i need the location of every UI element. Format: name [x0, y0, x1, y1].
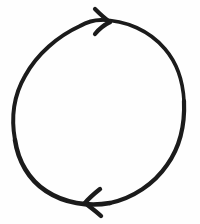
circle-stroke-upper-left — [13, 20, 101, 140]
drawing-canvas: A hand-drawn circle with two arrowheads … — [0, 0, 200, 224]
clockwise-circle-diagram — [0, 0, 200, 224]
bottom-arrowhead-upper-barb — [85, 189, 100, 203]
circle-stroke-upper-right — [101, 20, 184, 101]
circle-outline — [13, 20, 184, 205]
circle-stroke-lower-right — [110, 101, 184, 203]
top-arrowhead-lower-barb — [95, 22, 110, 34]
